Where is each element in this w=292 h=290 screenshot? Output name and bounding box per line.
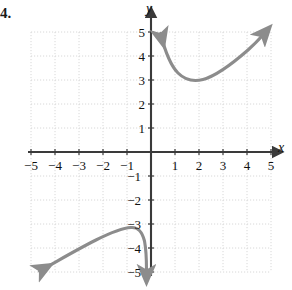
x-tick-label-neg3: −3 [67,159,91,172]
y-tick-label-neg5: −5 [119,266,141,279]
x-tick-label-3: 3 [211,159,235,172]
x-tick-label-neg4: −4 [43,159,67,172]
y-tick-label-neg3: −3 [119,218,141,231]
coordinate-plane-figure: 4. [0,0,292,290]
graph-canvas [0,0,292,290]
y-tick-label-4: 4 [123,50,145,63]
x-tick-label-1: 1 [163,159,187,172]
axes [28,16,274,276]
y-axis-label: y [146,2,152,16]
y-tick-label-3: 3 [123,74,145,87]
x-tick-label-2: 2 [187,159,211,172]
x-tick-label-4: 4 [235,159,259,172]
y-tick-label-5: 5 [123,26,145,39]
y-tick-label-neg4: −4 [119,242,141,255]
y-tick-label-2: 2 [123,98,145,111]
y-tick-label-neg1: −1 [119,170,141,183]
x-tick-label-neg5: −5 [19,159,43,172]
curve-upper-branch [161,34,262,81]
x-tick-label-neg2: −2 [91,159,115,172]
y-tick-label-neg2: −2 [119,194,141,207]
x-tick-label-5: 5 [259,159,283,172]
y-tick-label-1: 1 [123,122,145,135]
x-axis-label: x [278,141,284,155]
